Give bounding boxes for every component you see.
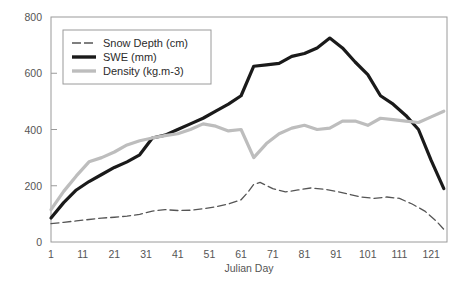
x-tick-label: 1 bbox=[48, 248, 54, 260]
x-tick-label: 11 bbox=[77, 248, 88, 260]
x-tick-label: 21 bbox=[109, 248, 121, 260]
x-tick-label: 111 bbox=[391, 248, 407, 260]
legend-label-density: Density (kg.m-3) bbox=[103, 65, 184, 77]
y-tick-label: 400 bbox=[24, 124, 42, 136]
x-tick-label: 61 bbox=[235, 248, 247, 260]
chart-legend: Snow Depth (cm) SWE (mm) Density (kg.m-3… bbox=[63, 30, 211, 84]
x-axis-tick-labels: 1112131415161718191101111121 bbox=[48, 248, 440, 260]
x-axis-title: Julian Day bbox=[224, 262, 274, 274]
legend-label-snow-depth: Snow Depth (cm) bbox=[103, 37, 188, 49]
y-tick-label: 0 bbox=[36, 236, 42, 248]
chart-figure: 0200400600800 11121314151617181911011111… bbox=[0, 0, 460, 300]
x-tick-label: 31 bbox=[140, 248, 152, 260]
x-tick-label: 101 bbox=[359, 248, 377, 260]
x-tick-label: 81 bbox=[299, 248, 311, 260]
x-tick-label: 41 bbox=[172, 248, 184, 260]
y-axis-tick-labels: 0200400600800 bbox=[24, 11, 42, 248]
y-tick-label: 600 bbox=[24, 67, 42, 79]
x-tick-label: 71 bbox=[267, 248, 279, 260]
x-tick-label: 121 bbox=[422, 248, 440, 260]
line-chart: 0200400600800 11121314151617181911011111… bbox=[0, 0, 460, 300]
legend-label-swe: SWE (mm) bbox=[103, 51, 157, 63]
x-tick-label: 51 bbox=[204, 248, 216, 260]
y-tick-label: 800 bbox=[24, 11, 42, 23]
x-tick-label: 91 bbox=[330, 248, 342, 260]
y-tick-label: 200 bbox=[24, 180, 42, 192]
